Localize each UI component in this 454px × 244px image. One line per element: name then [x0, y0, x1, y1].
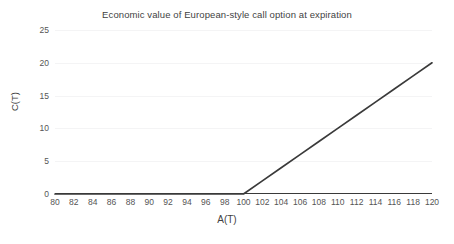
x-tick-label: 120 [419, 197, 445, 207]
y-axis-tick-labels: 0510152025 [0, 30, 49, 194]
y-tick-label: 5 [3, 157, 49, 166]
x-axis-tick-labels: 8082848688909294969810010210410610811011… [55, 197, 432, 209]
series-line-payoff [55, 63, 432, 194]
chart-title: Economic value of European-style call op… [0, 9, 454, 20]
plot-area [55, 30, 432, 194]
x-axis-title: A(T) [0, 214, 454, 225]
y-tick-label: 15 [3, 91, 49, 100]
chart-container: Economic value of European-style call op… [0, 0, 454, 244]
series-layer [55, 30, 432, 194]
y-tick-label: 25 [3, 26, 49, 35]
y-tick-label: 20 [3, 58, 49, 67]
y-tick-label: 10 [3, 124, 49, 133]
